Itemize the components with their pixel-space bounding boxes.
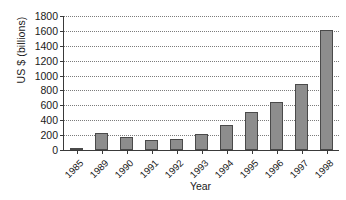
y-axis-tick — [60, 150, 64, 151]
bar — [195, 134, 208, 150]
y-axis-tick-label: 400 — [40, 114, 58, 126]
y-axis-tick-label: 0 — [52, 144, 58, 156]
x-axis-tick — [252, 150, 253, 154]
x-axis-tick — [77, 150, 78, 154]
y-axis-tick-label: 1600 — [35, 25, 58, 37]
x-axis-tick — [277, 150, 278, 154]
bar — [220, 125, 233, 150]
y-axis-tick-label: 200 — [40, 129, 58, 141]
y-axis-tick-label: 800 — [40, 84, 58, 96]
bar — [320, 30, 333, 150]
bars-series — [64, 16, 339, 150]
plot-area: 020040060080010001200140016001800 198519… — [63, 16, 339, 151]
bar — [295, 84, 308, 150]
y-axis-title: US $ (billions) — [15, 0, 27, 110]
x-axis-tick — [327, 150, 328, 154]
x-axis-tick — [302, 150, 303, 154]
x-axis-title: Year — [63, 180, 338, 192]
bar — [120, 137, 133, 150]
bar — [170, 139, 183, 150]
bar — [270, 102, 283, 150]
x-axis-tick — [127, 150, 128, 154]
bar — [245, 112, 258, 150]
y-axis-tick-label: 1800 — [35, 10, 58, 22]
y-axis-tick-label: 1200 — [35, 55, 58, 67]
bar-chart-figure: US $ (billions) 020040060080010001200140… — [0, 0, 346, 200]
bar — [95, 133, 108, 150]
y-axis-tick-label: 600 — [40, 99, 58, 111]
y-axis-tick-label: 1000 — [35, 70, 58, 82]
x-axis-tick — [227, 150, 228, 154]
x-axis-tick — [152, 150, 153, 154]
x-axis-tick — [202, 150, 203, 154]
y-axis-tick-label: 1400 — [35, 40, 58, 52]
x-axis-tick — [177, 150, 178, 154]
bar — [145, 140, 158, 150]
x-axis-tick — [102, 150, 103, 154]
